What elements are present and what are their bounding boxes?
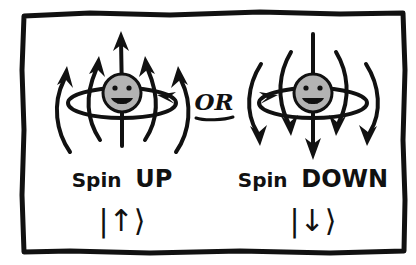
- figure-canvas: OR Spin UP |↑⟩ Spin DOWN |↓⟩: [0, 0, 416, 265]
- spin-up-ket: |↑⟩: [99, 203, 146, 239]
- spin-down-field-arrow-inner-left: [280, 52, 291, 122]
- spin-down-label-plain: Spin: [238, 168, 288, 192]
- spin-down-eye-right: [317, 85, 322, 90]
- spin-up-label-emphasis: UP: [135, 165, 172, 193]
- spin-up-field-arrowhead-inner-right: [139, 56, 155, 77]
- spin-down-sphere: [294, 74, 332, 112]
- spin-up-field-arrowhead-outer-left: [57, 66, 73, 88]
- spin-down-field-arrowhead-outer-left: [250, 125, 267, 146]
- spin-up-field-arrow-outer-right: [176, 80, 188, 152]
- spin-down-eye-left: [303, 85, 308, 90]
- spin-up-sphere: [103, 74, 141, 112]
- spin-up-field-arrow-inner-left: [89, 70, 100, 140]
- spin-down-diagram: [249, 34, 378, 160]
- spin-up-label: Spin UP: [72, 165, 173, 193]
- spin-up-eye-right: [126, 85, 131, 90]
- spin-down-ket: |↓⟩: [290, 203, 337, 239]
- spin-up-eye-left: [112, 85, 117, 90]
- spin-down-field-arrowhead-outer-right: [359, 125, 377, 146]
- spin-up-field-arrow-inner-right: [145, 70, 156, 140]
- spin-down-field-arrow-outer-right: [366, 64, 378, 132]
- spin-states-figure: OR Spin UP |↑⟩ Spin DOWN |↓⟩: [0, 0, 416, 265]
- spin-up-field-arrow-outer-left: [57, 80, 70, 152]
- or-connector-label: OR: [194, 88, 233, 115]
- spin-up-field-arrowhead-outer-right: [171, 66, 188, 88]
- figure-border: [22, 12, 405, 253]
- or-connector-underline: [196, 117, 233, 120]
- spin-up-diagram: [57, 31, 189, 152]
- spin-down-label: Spin DOWN: [238, 165, 388, 193]
- spin-up-field-arrowhead-inner-left: [89, 56, 105, 77]
- spin-down-label-emphasis: DOWN: [301, 165, 388, 193]
- spin-up-label-plain: Spin: [72, 168, 122, 192]
- spin-down-field-arrow-inner-right: [336, 52, 347, 122]
